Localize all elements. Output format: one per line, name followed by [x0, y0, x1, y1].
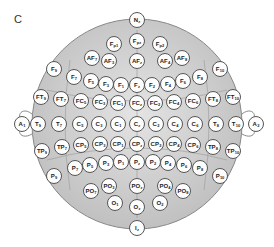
electrode-subscript-label: 7	[75, 77, 77, 81]
electrode-subscript-label: 9	[45, 151, 47, 155]
electrode-cp2: CP2	[148, 136, 164, 152]
electrode-fz: Fz	[129, 77, 145, 93]
electrode-fc2: FC2	[147, 95, 163, 111]
electrode-subscript-label: 4	[176, 124, 178, 128]
electrode-po8: PO8	[175, 183, 191, 199]
electrode-base-label: FT	[208, 96, 215, 102]
electrode-o1: O1	[107, 195, 123, 211]
electrode-af8: AF8	[174, 50, 190, 66]
electrode-subscript-label: 8	[201, 168, 203, 172]
electrode-t10: T10	[228, 116, 244, 132]
electrode-base-label: CP	[113, 141, 121, 147]
electrode-base-label: FC	[113, 100, 121, 106]
electrode-po7: PO7	[83, 183, 99, 199]
electrode-subscript-label: 1	[122, 85, 124, 89]
electrode-subscript-label: 2	[153, 85, 155, 89]
electrode-subscript-label: 8	[201, 77, 203, 81]
electrode-af4: AF4	[157, 53, 173, 69]
electrode-cp4: CP4	[166, 136, 182, 152]
electrode-base-label: PO	[103, 183, 112, 189]
electrode-subscript-label: 10	[220, 176, 224, 180]
electrode-poz: POz	[129, 178, 145, 194]
electrode-f2: F2	[144, 77, 160, 93]
electrode-subscript-label: 4	[168, 61, 170, 65]
electrode-subscript-label: z	[140, 186, 142, 190]
electrode-af3: AF3	[101, 53, 117, 69]
electrode-pz: Pz	[129, 154, 145, 170]
electrode-p7: P7	[67, 160, 83, 176]
electrode-base-label: CP	[95, 141, 103, 147]
electrode-fcz: FCz	[129, 95, 145, 111]
electrode-p4: P4	[160, 155, 176, 171]
electrode-subscript-label: 7	[95, 58, 97, 62]
electrode-subscript-label: 5	[81, 124, 83, 128]
electrode-p2: P2	[145, 154, 161, 170]
electrode-base-label: AF	[160, 58, 168, 64]
electrode-subscript-label: 1	[116, 203, 118, 207]
electrode-base-label: CP	[169, 141, 177, 147]
electrode-c5: C5	[72, 116, 88, 132]
electrode-subscript-label: 3	[103, 144, 105, 148]
electrode-cp6: CP6	[185, 137, 201, 153]
electrode-base-label: CP	[151, 141, 159, 147]
electrode-subscript-label: 6	[196, 145, 198, 149]
electrode-c4: C4	[167, 116, 183, 132]
electrode-subscript-label: z	[138, 85, 140, 89]
electrode-subscript-label: 6	[196, 101, 198, 105]
electrode-tp10: TP10	[225, 143, 241, 159]
electrode-base-label: TP	[227, 148, 235, 154]
electrode-p9: P9	[46, 168, 62, 184]
electrode-p3: P3	[98, 155, 114, 171]
electrode-subscript-label: 7	[60, 124, 62, 128]
electrode-f9: F9	[46, 61, 62, 77]
electrode-subscript-label: z	[138, 207, 140, 211]
electrode-ft9: FT9	[33, 89, 49, 105]
electrode-subscript-label: 4	[169, 163, 171, 167]
electrode-base-label: PO	[177, 188, 186, 194]
electrode-ft7: FT7	[53, 91, 69, 107]
electrode-subscript-label: 4	[177, 144, 179, 148]
electrode-cz: Cz	[129, 116, 145, 132]
electrode-subscript-label: 3	[107, 163, 109, 167]
electrode-subscript-label: 9	[55, 69, 57, 73]
electrode-base-label: FT	[36, 94, 43, 100]
electrode-c1: C1	[110, 116, 126, 132]
electrode-af7: AF7	[84, 50, 100, 66]
electrode-subscript-label: 2	[157, 124, 159, 128]
electrode-subscript-label: 7	[65, 147, 67, 151]
electrode-a1: A1	[14, 116, 30, 132]
electrode-subscript-label: 3	[112, 61, 114, 65]
electrode-f5: F5	[83, 73, 99, 89]
electrode-subscript-label: 6	[184, 81, 186, 85]
electrode-cp3: CP3	[92, 136, 108, 152]
electrode-tp8: TP8	[205, 139, 221, 155]
electrode-base-label: FC	[95, 99, 103, 105]
electrode-subscript-label: 2	[158, 103, 160, 107]
electrode-subscript-label: 1	[121, 103, 123, 107]
electrode-nz: Nz	[129, 12, 145, 28]
electrode-subscript-label: 4	[169, 84, 171, 88]
electrode-fc6: FC6	[185, 93, 201, 109]
electrode-base-label: PO	[132, 183, 141, 189]
electrode-fpz: Fpz	[129, 33, 145, 49]
electrode-subscript-label: 1	[119, 124, 121, 128]
electrode-tp9: TP9	[34, 143, 50, 159]
electrode-t9: T9	[30, 116, 46, 132]
electrode-ft10: FT10	[225, 89, 241, 105]
electrode-subscript-label: 10	[235, 97, 239, 101]
electrode-subscript-label: 8	[186, 191, 188, 195]
electrode-subscript-label: 3	[112, 186, 114, 190]
electrode-base-label: FC	[188, 98, 196, 104]
electrode-subscript-label: p1	[114, 44, 119, 48]
electrode-subscript-label: 2	[159, 144, 161, 148]
electrode-subscript-label: 6	[185, 165, 187, 169]
electrode-subscript-label: 2	[161, 203, 163, 207]
electrode-subscript-label: 9	[55, 176, 57, 180]
electrode-afz: AFz	[129, 53, 145, 69]
electrode-base-label: FT	[227, 94, 234, 100]
electrode-subscript-label: 5	[84, 145, 86, 149]
electrode-oz: Oz	[129, 199, 145, 215]
electrode-p1: P1	[113, 154, 129, 170]
electrode-t8: T8	[208, 116, 224, 132]
electrode-f7: F7	[66, 69, 82, 85]
